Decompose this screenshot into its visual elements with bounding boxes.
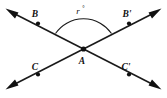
point-dot-B (36, 21, 40, 25)
label-B-prime: B' (122, 9, 132, 19)
arrowhead-upper-left (6, 9, 19, 19)
geometry-canvas: B B' C C' A r ° (0, 0, 167, 98)
point-dot-C (36, 72, 40, 76)
arrowhead-lower-right (149, 80, 162, 90)
point-dot-C-prime (127, 72, 131, 76)
angle-arc-r (56, 19, 112, 34)
point-dot-B-prime (127, 21, 131, 25)
label-C-prime: C' (122, 62, 131, 72)
label-angle-r: r (76, 6, 80, 16)
arrowhead-lower-left (6, 80, 19, 90)
arrowhead-upper-right (149, 9, 162, 19)
label-A: A (78, 56, 85, 66)
geometry-diagram: B B' C C' A r ° (0, 0, 167, 98)
point-dot-A (81, 46, 86, 51)
label-C: C (32, 62, 39, 72)
label-B: B (31, 9, 38, 19)
label-angle-degree-symbol: ° (82, 5, 85, 11)
